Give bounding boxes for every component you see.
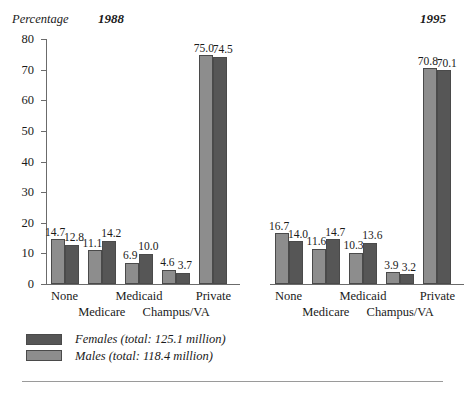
- x-axis-label: Champus/VA: [143, 306, 210, 319]
- y-axis-tick-label: 0: [28, 278, 34, 291]
- bar-rect: [65, 245, 79, 284]
- bar-rect: [326, 239, 340, 284]
- chart-panel-1988: Percentage 1988 01020304050607080 14.712…: [0, 0, 240, 320]
- legend-swatch-male: [26, 350, 62, 361]
- bar-group: 70.870.1: [423, 40, 451, 284]
- bar-group: 4.63.7: [162, 40, 190, 284]
- bar-rect: [400, 274, 414, 284]
- plot-area-1988: 01020304050607080 14.712.811.114.26.910.…: [46, 40, 232, 285]
- bar-group: 11.614.7: [312, 40, 340, 284]
- bar-value-label: 10.0: [138, 241, 158, 253]
- bar-male[interactable]: 4.6: [162, 40, 176, 284]
- bar-value-label: 3.2: [402, 262, 416, 274]
- bar-male[interactable]: 70.8: [423, 40, 437, 284]
- bar-rect: [312, 249, 326, 284]
- bar-value-label: 75.0: [194, 43, 214, 55]
- y-axis-tick-label: 30: [22, 186, 35, 199]
- bar-group: 75.074.5: [199, 40, 227, 284]
- chart-panel-1995: 1995 16.714.011.614.710.313.63.93.270.87…: [240, 0, 465, 320]
- x-axis-baseline: [270, 284, 464, 285]
- bar-male[interactable]: 16.7: [275, 40, 289, 284]
- bar-female[interactable]: 10.0: [139, 40, 153, 284]
- bar-group: 11.114.2: [88, 40, 116, 284]
- bar-male[interactable]: 3.9: [386, 40, 400, 284]
- bar-rect: [386, 272, 400, 284]
- bar-female[interactable]: 14.0: [289, 40, 303, 284]
- bar-rect: [213, 57, 227, 284]
- x-axis-labels-1988: NoneMedicareMedicaidChampus/VAPrivate: [46, 290, 232, 324]
- bar-value-label: 4.6: [160, 257, 174, 269]
- bar-value-label: 10.3: [343, 240, 363, 252]
- bar-group-container: 14.712.811.114.26.910.04.63.775.074.5: [46, 40, 232, 284]
- bar-female[interactable]: 13.6: [363, 40, 377, 284]
- bar-rect: [423, 68, 437, 284]
- panel-title-1988: 1988: [98, 11, 124, 27]
- bar-value-label: 6.9: [123, 250, 137, 262]
- bar-value-label: 13.6: [362, 230, 382, 242]
- bar-rect: [363, 243, 377, 284]
- bar-value-label: 16.7: [269, 221, 289, 233]
- bar-male[interactable]: 11.1: [88, 40, 102, 284]
- bar-female[interactable]: 12.8: [65, 40, 79, 284]
- y-axis-tick-label: 40: [22, 155, 35, 168]
- bar-rect: [199, 55, 213, 284]
- bar-value-label: 14.7: [325, 227, 345, 239]
- bar-female[interactable]: 3.2: [400, 40, 414, 284]
- x-axis-baseline: [46, 284, 240, 285]
- x-axis-label: Medicaid: [339, 290, 386, 303]
- legend-label: Males (total: 118.4 million): [75, 350, 213, 363]
- bar-male[interactable]: 6.9: [125, 40, 139, 284]
- y-axis-tick-label: 20: [22, 217, 35, 230]
- bar-female[interactable]: 14.2: [102, 40, 116, 284]
- y-axis-tick-label: 80: [22, 33, 35, 46]
- bottom-divider: [22, 381, 443, 382]
- x-axis-labels-1995: NoneMedicareMedicaidChampus/VAPrivate: [270, 290, 456, 324]
- plot-area-1995: 16.714.011.614.710.313.63.93.270.870.1: [270, 40, 456, 285]
- bar-value-label: 14.7: [45, 227, 65, 239]
- bar-value-label: 3.9: [384, 260, 398, 272]
- bar-rect: [176, 273, 190, 284]
- bar-value-label: 74.5: [213, 44, 233, 56]
- bar-group: 10.313.6: [349, 40, 377, 284]
- y-axis-tick-label: 10: [22, 247, 35, 260]
- bar-female[interactable]: 74.5: [213, 40, 227, 284]
- legend-item-female: Females (total: 125.1 million): [26, 333, 226, 346]
- bar-group: 14.712.8: [51, 40, 79, 284]
- x-axis-label: Medicare: [78, 306, 125, 319]
- x-axis-label: Medicaid: [115, 290, 162, 303]
- y-axis-tick-label: 60: [22, 94, 35, 107]
- panel-title-1995: 1995: [420, 11, 446, 27]
- bar-group-container: 16.714.011.614.710.313.63.93.270.870.1: [270, 40, 456, 284]
- bar-rect: [162, 270, 176, 284]
- y-axis-tick-label: 50: [22, 125, 35, 138]
- legend-label: Females (total: 125.1 million): [75, 333, 226, 346]
- legend-item-male: Males (total: 118.4 million): [26, 350, 226, 363]
- bar-value-label: 70.1: [437, 58, 457, 70]
- bar-rect: [275, 233, 289, 284]
- bar-male[interactable]: 14.7: [51, 40, 65, 284]
- bar-value-label: 11.6: [307, 236, 327, 248]
- bar-male[interactable]: 10.3: [349, 40, 363, 284]
- bar-rect: [88, 250, 102, 284]
- x-axis-label: Medicare: [302, 306, 349, 319]
- bar-rect: [102, 241, 116, 284]
- bar-group: 3.93.2: [386, 40, 414, 284]
- bar-value-label: 14.2: [101, 228, 121, 240]
- bar-rect: [51, 239, 65, 284]
- bar-female[interactable]: 14.7: [326, 40, 340, 284]
- bar-value-label: 12.8: [64, 232, 84, 244]
- bar-female[interactable]: 3.7: [176, 40, 190, 284]
- y-axis-title: Percentage: [12, 12, 68, 27]
- bar-value-label: 14.0: [288, 229, 308, 241]
- bar-group: 6.910.0: [125, 40, 153, 284]
- bar-male[interactable]: 75.0: [199, 40, 213, 284]
- bar-value-label: 11.1: [83, 238, 103, 250]
- y-axis-tick-label: 70: [22, 63, 35, 76]
- bar-value-label: 3.7: [178, 260, 192, 272]
- bar-rect: [125, 263, 139, 284]
- bar-rect: [139, 254, 153, 285]
- bar-group: 16.714.0: [275, 40, 303, 284]
- bar-male[interactable]: 11.6: [312, 40, 326, 284]
- bar-rect: [349, 253, 363, 284]
- bar-female[interactable]: 70.1: [437, 40, 451, 284]
